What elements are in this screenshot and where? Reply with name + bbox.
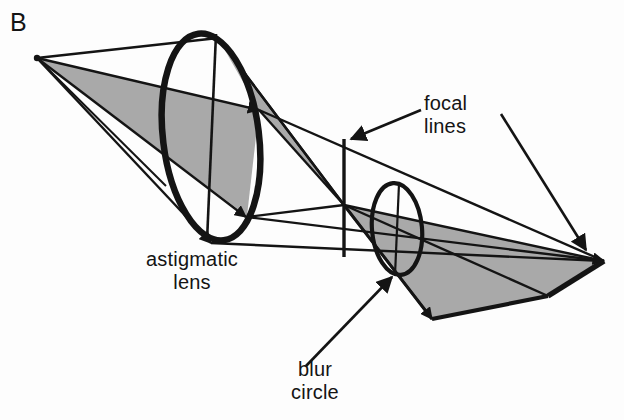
- astigmatic-lens-label-line1: astigmatic: [106, 248, 278, 271]
- blur-circle-label: blur circle: [247, 358, 383, 404]
- blur-circle-label-line2: circle: [247, 381, 383, 404]
- optics-diagram-figure: B astigmatic lens focal lines blur circl…: [0, 0, 624, 420]
- blur-circle-label-line1: blur: [247, 358, 383, 381]
- astigmatic-lens-label-line2: lens: [106, 271, 278, 294]
- panel-letter-label: B: [10, 8, 27, 37]
- focal-lines-label-line1: focal: [424, 92, 544, 115]
- diagram-canvas: [0, 0, 624, 420]
- shaded-beam-before-lens: [37, 58, 259, 216]
- astigmatic-lens-label: astigmatic lens: [106, 248, 278, 294]
- focal-lines-label: focal lines: [424, 92, 544, 138]
- blur-circle-arrow: [306, 277, 392, 366]
- focal-lines-left-arrow: [351, 110, 421, 139]
- source-point-marker: [34, 55, 40, 61]
- ray-to-lens-top: [37, 38, 218, 58]
- focal-lines-label-line2: lines: [424, 115, 544, 138]
